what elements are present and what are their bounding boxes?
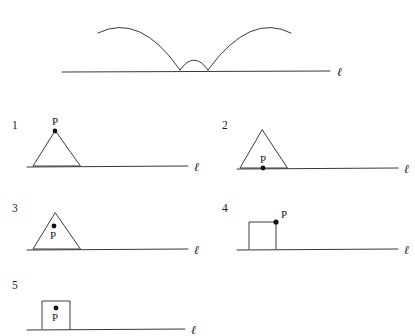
option-4-point-p	[273, 219, 278, 224]
option-5-point-label: P	[52, 311, 58, 323]
top-figure-group: ℓ	[62, 27, 342, 79]
option-2-point-label: P	[260, 153, 266, 165]
small-arc-middle	[180, 60, 208, 70]
option-1-group: 1 ℓ P	[12, 115, 199, 174]
option-1-line-label: ℓ	[194, 160, 199, 174]
option-2-line-label: ℓ	[404, 162, 409, 176]
option-3-point-label: P	[50, 229, 56, 241]
option-3-group: 3 ℓ P	[12, 202, 199, 257]
option-2-group: 2 ℓ P	[222, 119, 409, 176]
option-1-triangle	[33, 131, 80, 166]
option-5-group: 5 ℓ P	[12, 279, 196, 336]
option-2-number: 2	[222, 119, 228, 131]
option-3-triangle	[33, 213, 80, 249]
option-4-square	[249, 222, 276, 249]
option-4-line-label: ℓ	[404, 243, 409, 257]
option-5-baseline	[27, 329, 185, 330]
option-1-point-label: P	[52, 115, 58, 127]
large-arc-left	[98, 27, 180, 70]
option-4-group: 4 ℓ P	[222, 202, 409, 257]
option-1-number: 1	[12, 119, 18, 131]
option-2-point-p	[261, 166, 266, 171]
option-3-number: 3	[12, 202, 18, 214]
option-5-line-label: ℓ	[191, 323, 196, 336]
large-arc-right	[208, 27, 291, 70]
option-5-point-p	[54, 306, 59, 311]
figure-root: ℓ 1 ℓ P 2 ℓ P 3 ℓ P	[0, 0, 415, 336]
option-4-number: 4	[222, 202, 228, 214]
option-5-number: 5	[12, 279, 18, 291]
top-line-label: ℓ	[337, 65, 342, 79]
top-baseline	[62, 71, 330, 72]
option-3-line-label: ℓ	[194, 243, 199, 257]
option-4-point-label: P	[281, 208, 287, 220]
option-1-point-p	[53, 129, 58, 134]
option-3-point-p	[52, 224, 57, 229]
option-4-baseline	[237, 249, 398, 250]
